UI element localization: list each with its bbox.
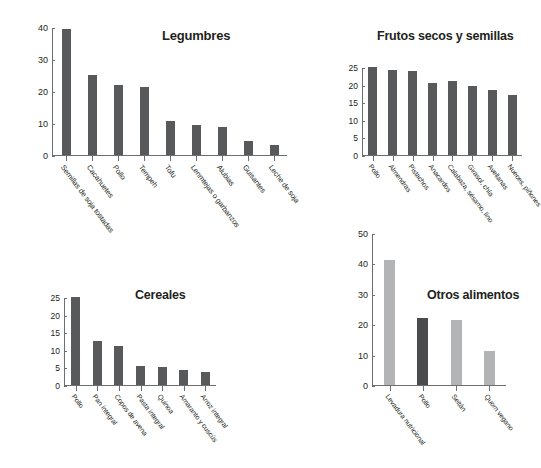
bar [488,90,497,155]
bar-cell [462,68,482,155]
x-label: Quorn vegano [484,393,516,432]
y-tick: 5 [55,363,64,373]
x-label: Amaranto y cuscús [178,393,218,443]
y-tick: 10 [358,351,372,361]
bar-cell [194,298,216,385]
bar [201,372,210,385]
y-tick: 0 [363,381,372,391]
y-tick: 10 [349,116,362,126]
bar-cell [65,298,87,385]
y-tick: 20 [51,311,64,321]
y-tick: 20 [358,320,372,330]
bar [140,87,149,155]
y-tick: 20 [349,81,362,91]
bar-cell [261,28,287,155]
bar [408,71,417,155]
bar-cell [108,298,130,385]
bar-cell [423,68,443,155]
bar-cell [130,298,152,385]
bar [136,366,145,385]
bar-series-frutos-secos [363,68,522,155]
x-tick-marks [53,156,287,161]
bar [508,95,517,155]
chart-panel-legumbres: Legumbres 40 30 20 10 0 Semillas [0,0,300,230]
x-label: Pollo [70,393,85,409]
x-label: Alubias [215,163,237,188]
bar [270,145,279,155]
bar [88,75,97,155]
y-tick: 20 [38,87,52,97]
y-tick: 25 [349,63,362,73]
y-tick: 0 [353,151,362,161]
bar-series-legumbres [53,28,287,155]
plot-area-otros-alimentos: 50 40 30 20 10 0 Levadura nutricional Po… [372,234,506,386]
bar [62,29,71,155]
y-tick: 25 [51,293,64,303]
bar [451,320,462,385]
plot-area-legumbres: 40 30 20 10 0 Semillas de soja tostadas … [52,28,287,156]
y-tick: 30 [358,290,372,300]
chart-panel-frutos-secos: Frutos secos y semillas 25 20 15 10 5 0 … [330,0,541,230]
y-tick: 0 [55,381,64,391]
bar [158,367,167,385]
bar-cell [473,234,506,385]
bar-series-otros-alimentos [373,234,506,385]
bar-cell [440,234,473,385]
bar [448,81,457,155]
x-label: Quinoa [157,393,176,415]
bar-cell [157,28,183,155]
bar-cell [502,68,522,155]
bar [384,260,395,385]
y-tick: 15 [349,98,362,108]
bar-cell [383,68,403,155]
y-tick: 0 [43,151,52,161]
bar-cell [406,234,439,385]
bar [166,121,175,155]
bar [114,85,123,155]
x-label: Guisantes [241,163,268,195]
bar [114,346,123,385]
bar-cell [105,28,131,155]
x-label: Pollo [417,393,432,409]
bar-cell [363,68,383,155]
x-tick-marks [373,386,506,391]
bar-cell [87,298,109,385]
bar [244,141,253,155]
y-tick: 15 [51,328,64,338]
bar-cell [53,28,79,155]
x-label: Nueces, piñones [506,163,541,208]
chart-title-frutos-secos: Frutos secos y semillas [377,29,513,43]
x-tick-marks [363,156,522,161]
x-label: Pollo [367,163,382,179]
bar-series-cereales [65,298,216,385]
y-tick: 40 [358,259,372,269]
x-tick-marks [65,386,216,391]
bar [388,70,397,155]
bar [468,86,477,155]
x-label: Seitán [451,393,468,413]
chart-panel-otros-alimentos: Otros alimentos 50 40 30 20 10 0 Levadur… [330,230,541,468]
y-tick: 40 [38,23,52,33]
x-label: Tofu [163,163,178,179]
chart-panel-cereales: Cereales 25 20 15 10 5 0 Pollo Pan integ… [0,230,300,468]
bar-cell [235,28,261,155]
bar-cell [151,298,173,385]
plot-area-cereales: 25 20 15 10 5 0 Pollo Pan integral Copos… [64,298,216,386]
x-label: Lenmtejas o garbanzos [189,163,242,229]
bar [484,351,495,385]
plot-area-frutos-secos: 25 20 15 10 5 0 Pollo Almendras Pistacho… [362,68,522,156]
x-label: Leche de soja [267,163,302,205]
bar [93,341,102,385]
bar [71,297,80,385]
x-label: Pollo [111,163,128,181]
bar-cell [79,28,105,155]
x-label: Tempeh [137,163,160,189]
bar [368,67,377,155]
bar [179,370,188,385]
bar-cell [131,28,157,155]
bar-cell [482,68,502,155]
bar-cell [183,28,209,155]
bar [218,127,227,155]
bar-cell [373,234,406,385]
bar-cell [443,68,463,155]
